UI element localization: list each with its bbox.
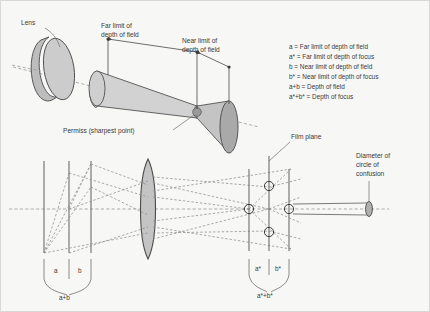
legend-item-0: a = Far limit of depth of field bbox=[289, 43, 368, 51]
near-cone bbox=[197, 101, 238, 153]
lens-disc bbox=[12, 36, 79, 102]
legend-item-4: a+b = Depth of field bbox=[289, 83, 345, 91]
brace-right: a* b* a*+b* bbox=[249, 259, 289, 299]
legend-item-3: b* = Near limit of depth of focus bbox=[289, 73, 378, 81]
brace-label-a-star: a* bbox=[255, 265, 262, 272]
coc-label-line1: Diameter of bbox=[356, 152, 390, 159]
near-limit-label-line2: depth of field bbox=[182, 46, 220, 54]
near-limit-dimension bbox=[195, 50, 230, 104]
optics-diagram: Lens Far limit of d bbox=[0, 0, 430, 312]
legend-item-2: b = Near limit of depth of field bbox=[289, 63, 373, 71]
circle-of-confusion bbox=[366, 202, 373, 217]
object-rays bbox=[44, 164, 148, 253]
legend-item-5: a*+b* = Depth of focus bbox=[289, 93, 353, 101]
lens-label: Lens bbox=[21, 19, 36, 26]
permiss-label: Permiss (sharpest point) bbox=[63, 127, 134, 135]
legend: a = Far limit of depth of field a* = Far… bbox=[289, 43, 378, 101]
film-plane-label: Film plane bbox=[291, 133, 322, 141]
coc-label-line3: confusion bbox=[356, 170, 385, 177]
permiss-label-group: Permiss (sharpest point) bbox=[63, 115, 194, 135]
far-limit-label-line2: depth of field bbox=[101, 31, 139, 39]
far-cone bbox=[89, 71, 200, 118]
far-limit-label-line1: Far limit of bbox=[101, 22, 132, 29]
near-limit-label-line1: Near limit of bbox=[182, 37, 217, 44]
legend-item-1: a* = Far limit of depth of focus bbox=[289, 53, 374, 61]
coc-label-line2: circle of bbox=[356, 161, 379, 168]
brace-label-b-star: b* bbox=[275, 265, 282, 272]
coc-label-group: Diameter of circle of confusion bbox=[356, 152, 390, 201]
lower-scene: Film plane Diameter of circle of confusi… bbox=[9, 133, 390, 301]
upper-scene: Lens Far limit of d bbox=[12, 19, 259, 153]
biconvex-lens bbox=[141, 159, 156, 259]
diagram-canvas: Lens Far limit of d bbox=[1, 1, 429, 311]
brace-label-b: b bbox=[78, 267, 82, 274]
brace-left: a b a+b bbox=[44, 259, 91, 301]
brace-label-a-star-plus-b-star: a*+b* bbox=[257, 292, 273, 299]
film-plane-label-group: Film plane bbox=[269, 133, 322, 161]
brace-label-a-plus-b: a+b bbox=[59, 294, 70, 301]
brace-label-a: a bbox=[54, 267, 58, 274]
